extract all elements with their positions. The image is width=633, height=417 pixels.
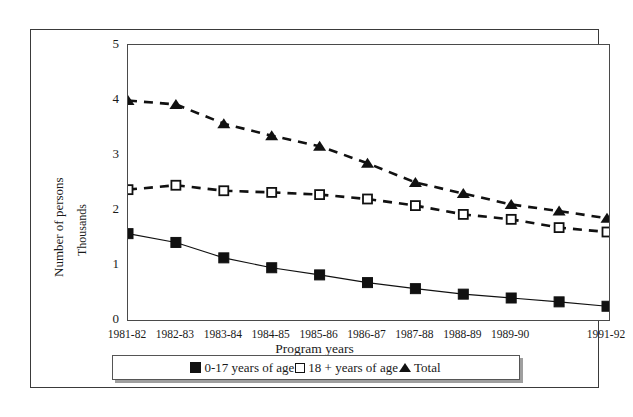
data-point-marker <box>169 99 182 109</box>
data-point-marker <box>219 186 228 195</box>
data-point-marker <box>507 215 516 224</box>
chart-legend: 0-17 years of age18 + years of ageTotal <box>112 355 520 380</box>
legend-entry[interactable]: 18 + years of age <box>295 360 399 376</box>
data-point-marker <box>128 229 133 239</box>
legend-entry[interactable]: 0-17 years of age <box>190 360 295 376</box>
legend-entry-label: Total <box>411 360 442 376</box>
data-point-marker <box>603 228 610 237</box>
x-tick-label: 1984-85 <box>252 328 290 340</box>
y-tick-label: 2 <box>97 201 119 217</box>
legend-entries: 0-17 years of age18 + years of ageTotal <box>113 356 519 379</box>
data-point-marker <box>459 210 468 219</box>
x-tick-label: 1982-83 <box>156 328 194 340</box>
chart-canvas <box>128 45 609 320</box>
x-tick-label: 1983-84 <box>204 328 242 340</box>
x-tick-label: 1981-82 <box>108 328 146 340</box>
plot-area <box>127 44 610 321</box>
x-tick-label: 1988-89 <box>443 328 481 340</box>
legend-entry-label: 18 + years of age <box>305 360 399 376</box>
y-tick-label: 4 <box>97 91 119 107</box>
data-point-marker <box>410 284 420 294</box>
x-tick-label: 1991-92 <box>587 328 625 340</box>
data-point-marker <box>219 253 229 263</box>
x-tick-label: 1986-87 <box>347 328 385 340</box>
x-tick-label: 1989-90 <box>491 328 529 340</box>
data-point-marker <box>267 188 276 197</box>
data-point-marker <box>411 201 420 210</box>
data-point-marker <box>171 237 181 247</box>
data-point-marker <box>554 297 564 307</box>
x-tick-label: 1987-88 <box>395 328 433 340</box>
data-point-marker <box>363 278 373 288</box>
data-point-marker <box>602 301 609 311</box>
data-point-marker <box>315 190 324 199</box>
y-tick-label: 5 <box>97 36 119 52</box>
data-point-marker <box>315 270 325 280</box>
legend-entry[interactable]: Total <box>399 360 442 376</box>
data-point-marker <box>217 118 230 128</box>
data-point-marker <box>506 293 516 303</box>
data-point-marker <box>128 185 133 194</box>
data-point-marker <box>458 289 468 299</box>
data-point-marker <box>267 263 277 273</box>
data-point-marker <box>363 195 372 204</box>
triangle-marker-icon <box>399 363 411 372</box>
y-tick-label: 0 <box>97 311 119 327</box>
x-tick-label: 1985-86 <box>299 328 337 340</box>
legend-entry-label: 0-17 years of age <box>201 360 295 376</box>
figure-outer-border: Number of persons Thousands 012345 1981-… <box>30 29 599 388</box>
series-line-filled-square <box>128 234 607 307</box>
data-point-marker <box>457 188 470 198</box>
y-tick-label: 1 <box>97 256 119 272</box>
filled-square-marker-icon <box>190 362 201 373</box>
data-point-marker <box>555 223 564 232</box>
data-point-marker <box>171 181 180 190</box>
y-tick-label: 3 <box>97 146 119 162</box>
data-point-marker <box>601 213 610 223</box>
open-square-marker-icon <box>295 363 305 373</box>
